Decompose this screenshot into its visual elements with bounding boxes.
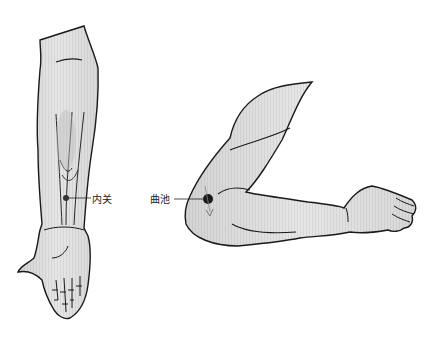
forearm-figure	[18, 26, 98, 319]
acupuncture-illustration	[0, 0, 440, 339]
neiguan-point-marker	[63, 195, 69, 201]
muscle-shading	[56, 110, 76, 170]
neiguan-label: 内关	[92, 194, 112, 206]
quchi-label: 曲池	[150, 194, 170, 206]
bent-arm-figure	[174, 82, 416, 246]
